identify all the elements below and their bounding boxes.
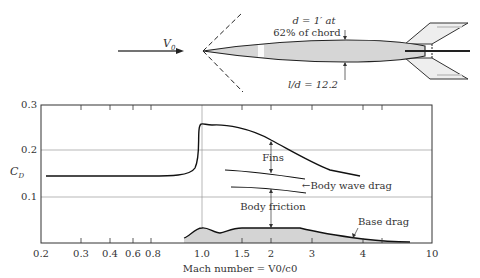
shock-line-upper: [203, 12, 243, 51]
svg-text:1.0: 1.0: [194, 248, 210, 259]
svg-text:0.8: 0.8: [145, 248, 161, 259]
svg-text:1.5: 1.5: [234, 248, 250, 259]
svg-text:3: 3: [309, 248, 315, 259]
velocity-label: V0: [163, 37, 176, 52]
drag-chart: Fins ←Body wave drag Body friction Base …: [10, 99, 438, 274]
annotation-body-wave-drag: ←Body wave drag: [302, 180, 392, 191]
svg-text:0.2: 0.2: [33, 248, 49, 259]
rocket-diagram: V0 d = 1′ at 62% of chord l/d = 12.2: [118, 12, 470, 92]
svg-text:0.4: 0.4: [102, 248, 118, 259]
arrow-head-icon: [176, 48, 184, 54]
figure: V0 d = 1′ at 62% of chord l/d = 12.2: [0, 0, 480, 278]
annotation-base-drag: Base drag: [358, 216, 410, 227]
svg-text:0.2: 0.2: [21, 144, 37, 155]
x-tick-labels: 0.2 0.3 0.4 0.6 0.8 1.0 1.5 2 3 4 10: [33, 248, 438, 259]
svg-text:2: 2: [268, 248, 274, 259]
svg-text:10: 10: [426, 248, 439, 259]
rocket-body: [203, 40, 425, 62]
fineness-ratio-label: l/d = 12.2: [288, 79, 338, 90]
y-axis-label: CD: [10, 165, 24, 180]
diameter-label: d = 1′ at: [293, 15, 337, 26]
x-axis-label: Mach number = V0/c0: [183, 263, 298, 274]
y-tick-labels: 0.3 0.2 0.1: [21, 99, 37, 202]
annotation-body-friction: Body friction: [240, 201, 306, 212]
shock-line-lower: [203, 51, 243, 92]
chord-label: 62% of chord: [273, 27, 341, 38]
annotation-fins: Fins: [262, 152, 284, 163]
svg-text:0.6: 0.6: [125, 248, 141, 259]
fins-boundary-curve: [225, 170, 305, 179]
svg-text:0.3: 0.3: [73, 248, 89, 259]
body-band: [258, 45, 264, 57]
svg-text:0.1: 0.1: [21, 191, 37, 202]
svg-text:0.3: 0.3: [21, 99, 37, 110]
body-wave-boundary-curve: [231, 187, 306, 193]
svg-text:4: 4: [360, 248, 366, 259]
